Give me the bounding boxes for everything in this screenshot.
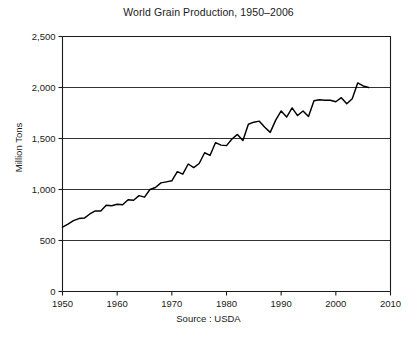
data-line-world-grain-production (63, 83, 369, 227)
plot-area (0, 0, 417, 343)
y-axis-title: Million Tons (13, 108, 24, 188)
chart-container: World Grain Production, 1950–2006 05001,… (0, 0, 417, 343)
axis-frame (63, 37, 391, 292)
y-tick-label: 2,000 (1, 82, 56, 93)
x-tick-label: 1970 (147, 298, 197, 309)
y-tick-label: 1,000 (1, 184, 56, 195)
y-tick-label: 500 (1, 235, 56, 246)
x-tick-label: 1990 (256, 298, 306, 309)
x-tick-label: 1960 (92, 298, 142, 309)
gridlines-group (63, 88, 391, 241)
y-tick-label: 1,500 (1, 133, 56, 144)
tick-marks-group (59, 37, 391, 296)
y-tick-label: 0 (1, 286, 56, 297)
y-tick-label: 2,500 (1, 31, 56, 42)
x-tick-label: 1950 (38, 298, 88, 309)
x-tick-label: 2010 (366, 298, 416, 309)
source-note: Source : USDA (0, 313, 417, 324)
x-tick-label: 2000 (311, 298, 361, 309)
x-tick-label: 1980 (202, 298, 252, 309)
